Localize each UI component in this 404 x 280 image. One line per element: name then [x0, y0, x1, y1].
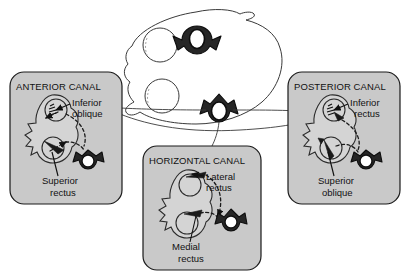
panel-horizontal-canal[interactable]: HORIZONTAL CANAL Lateral rectus: [143, 146, 261, 270]
figure-canvas: ANTERIOR CANAL: [0, 0, 404, 280]
panel-anterior-canal-title: ANTERIOR CANAL: [16, 81, 101, 92]
svg-text:rectus: rectus: [354, 108, 380, 119]
panel-horizontal-canal-title: HORIZONTAL CANAL: [149, 155, 245, 166]
svg-text:rectus: rectus: [178, 253, 204, 264]
svg-text:Medial: Medial: [172, 241, 200, 252]
head-eye-upper: [143, 28, 177, 62]
svg-text:Inferior: Inferior: [350, 97, 380, 108]
svg-text:Superior: Superior: [42, 175, 78, 186]
svg-text:Superior: Superior: [318, 175, 354, 186]
svg-text:oblique: oblique: [72, 108, 103, 119]
panel-posterior-canal[interactable]: POSTERIOR CANAL Inferior: [288, 72, 400, 204]
panel-anterior-canal[interactable]: ANTERIOR CANAL: [10, 72, 122, 204]
anatomy-figure: ANTERIOR CANAL: [0, 0, 404, 280]
svg-text:rectus: rectus: [50, 187, 76, 198]
connector-to-horizontal-panel: [212, 122, 219, 146]
svg-text:Inferior: Inferior: [72, 97, 102, 108]
panel-posterior-canal-title: POSTERIOR CANAL: [294, 81, 386, 92]
svg-text:oblique: oblique: [322, 187, 353, 198]
head-diagram: [124, 10, 282, 124]
head-eye-lower: [145, 79, 179, 113]
svg-text:rectus: rectus: [206, 182, 232, 193]
svg-text:Lateral: Lateral: [206, 171, 235, 182]
